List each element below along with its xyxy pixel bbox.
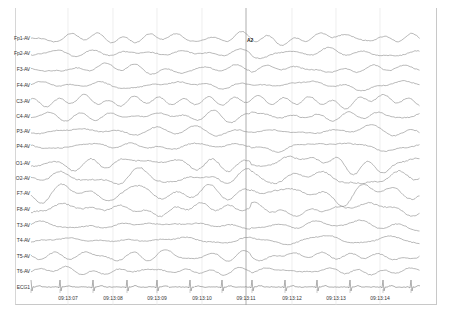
- trace-f8-av: [31, 202, 420, 217]
- channel-label-f3-av[interactable]: F3-AV: [0, 66, 30, 72]
- channel-label-o1-av[interactable]: O1-AV: [0, 160, 30, 166]
- trace-p3-av: [31, 125, 420, 137]
- trace-f7-av: [31, 184, 420, 207]
- channel-label-t6-av[interactable]: T6-AV: [0, 268, 30, 274]
- trace-f4-av: [31, 81, 420, 91]
- trace-p4-av: [31, 143, 420, 153]
- trace-t4-av: [31, 236, 420, 245]
- trace-c3-av: [31, 94, 420, 109]
- time-label: 09:13:11: [236, 295, 255, 301]
- trace-t6-av: [31, 266, 420, 275]
- channel-label-t4-av[interactable]: T4-AV: [0, 237, 30, 243]
- channel-label-f4-av[interactable]: F4-AV: [0, 82, 30, 88]
- channel-label-f8-av[interactable]: F8-AV: [0, 206, 30, 212]
- channel-label-t5-av[interactable]: T5-AV: [0, 253, 30, 259]
- channel-label-p3-av[interactable]: P3-AV: [0, 128, 30, 134]
- channel-label-t3-av[interactable]: T3-AV: [0, 222, 30, 228]
- trace-fp2-av: [31, 47, 420, 58]
- time-label: 09:13:14: [370, 295, 389, 301]
- trace-t3-av: [31, 220, 420, 231]
- trace-t5-av: [31, 250, 420, 261]
- channel-label-fp1-av[interactable]: Fp1-AV: [0, 35, 30, 41]
- channel-label-c3-av[interactable]: C3-AV: [0, 98, 30, 104]
- event-marker-label[interactable]: A2: [247, 37, 253, 43]
- trace-o1-av: [31, 156, 420, 175]
- time-label: 09:13:09: [147, 295, 166, 301]
- time-label: 09:13:07: [58, 295, 77, 301]
- channel-label-ecg1[interactable]: ECG1: [0, 284, 30, 290]
- eeg-viewer: Fp1-AVFp2-AVF3-AVF4-AVC3-AVC4-AVP3-AVP4-…: [0, 0, 450, 315]
- trace-f3-av: [31, 63, 420, 75]
- channel-label-f7-av[interactable]: F7-AV: [0, 190, 30, 196]
- trace-c4-av: [31, 110, 420, 123]
- channel-label-c4-av[interactable]: C4-AV: [0, 113, 30, 119]
- time-label: 09:13:08: [103, 295, 122, 301]
- channel-label-fp2-av[interactable]: Fp2-AV: [0, 50, 30, 56]
- time-label: 09:13:13: [326, 295, 345, 301]
- trace-ecg1: [31, 280, 420, 291]
- time-label: 09:13:12: [282, 295, 301, 301]
- channel-label-o2-av[interactable]: O2-AV: [0, 175, 30, 181]
- channel-label-p4-av[interactable]: P4-AV: [0, 143, 30, 149]
- time-label: 09:13:10: [192, 295, 211, 301]
- trace-fp1-av: [31, 32, 420, 46]
- eeg-traces[interactable]: [0, 0, 450, 315]
